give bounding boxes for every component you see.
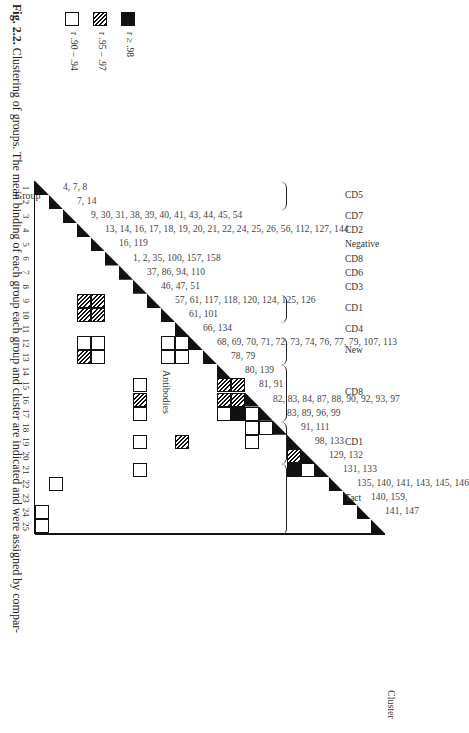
cluster-brace: [276, 365, 287, 421]
matrix-cell-open: [49, 477, 63, 491]
diagonal-step: [301, 449, 315, 463]
antibody-group-2: 7, 14: [77, 196, 97, 206]
antibody-group-20: 129, 132: [329, 450, 363, 460]
antibody-group-1: 4, 7, 8: [63, 182, 87, 192]
cluster-label: CD3: [345, 282, 363, 292]
diagonal-step: [35, 181, 49, 195]
diagonal-step: [49, 195, 63, 209]
matrix-cell-open: [77, 336, 91, 350]
matrix-cell-hatched: [217, 393, 231, 407]
antibody-group-4: 13, 14, 16, 17, 18, 19, 20, 21, 22, 24, …: [105, 224, 349, 234]
cluster-label: Negative: [345, 239, 379, 249]
antibody-group-7: 37, 86, 94, 110: [147, 267, 205, 277]
matrix-cell-black: [287, 463, 301, 477]
antibody-group-10: 61, 101: [189, 309, 218, 319]
antibody-group-21: 131, 133: [343, 464, 377, 474]
matrix-cell-hatched: [231, 393, 245, 407]
diagonal-step: [161, 308, 175, 322]
diagonal-step: [91, 237, 105, 251]
antibody-group-13: 78, 79: [231, 351, 255, 361]
cluster-label: CD5: [345, 190, 363, 200]
matrix-cell-hatched: [91, 308, 105, 322]
antibody-group-24: 141, 147: [385, 506, 419, 516]
cluster-label: CD1: [345, 303, 363, 313]
antibody-group-5: 16, 119: [119, 238, 148, 248]
diagonal-step: [245, 393, 259, 407]
matrix-cell-hatched: [231, 378, 245, 392]
cluster-brace: [276, 337, 287, 365]
matrix-cell-hatched: [77, 308, 91, 322]
diagonal-step: [217, 364, 231, 378]
diagonal-step: [329, 477, 343, 491]
matrix-cell-open: [245, 407, 259, 421]
diagonal-step: [287, 435, 301, 449]
cluster-header: Cluster: [386, 690, 397, 719]
cluster-brace: [276, 182, 287, 210]
antibody-group-12: 68, 69, 70, 71, 72, 73, 74, 76, 77, 79, …: [217, 337, 397, 347]
cluster-label: New: [345, 345, 363, 355]
matrix-cell-open: [133, 407, 147, 421]
matrix-cell-hatched: [217, 378, 231, 392]
diagonal-step: [147, 294, 161, 308]
matrix-right-edge: [35, 533, 385, 534]
antibody-group-11: 66, 134: [203, 323, 232, 333]
antibodies-header: Antibodies: [161, 370, 172, 414]
antibody-group-9: 57, 61, 117, 118, 120, 124, 125, 126: [175, 295, 316, 305]
matrix-cell-open: [91, 350, 105, 364]
diagonal-step: [357, 505, 371, 519]
legend-swatch-black: [121, 12, 135, 26]
matrix-cell-hatched: [77, 294, 91, 308]
legend-label: r ≥ .98: [125, 32, 135, 57]
antibody-group-6: 1, 2, 35, 100, 157, 158: [133, 253, 221, 263]
matrix-cell-hatched: [287, 449, 301, 463]
matrix-baseline: [34, 181, 35, 534]
diagonal-step: [189, 336, 203, 350]
cluster-label: CD6: [345, 268, 363, 278]
cluster-label: CD4: [345, 324, 363, 334]
antibody-group-8: 46, 47, 51: [161, 281, 200, 291]
cluster-brace: [276, 422, 287, 464]
diagonal-step: [119, 266, 133, 280]
diagonal-step: [371, 519, 385, 533]
cluster-label: CD1: [345, 437, 363, 447]
antibody-group-3: 9, 30, 31, 38, 39, 40, 41, 43, 44, 45, 5…: [91, 210, 242, 220]
diagonal-step: [315, 463, 329, 477]
diagonal-step: [259, 407, 273, 421]
figure-caption: Fig. 2.2. Clustering of groups. The mean…: [9, 4, 24, 633]
diagonal-step: [63, 209, 77, 223]
matrix-cell-open: [91, 336, 105, 350]
matrix-cell-open: [161, 336, 175, 350]
matrix-cell-black: [231, 407, 245, 421]
cluster-brace: [276, 295, 287, 323]
matrix-cell-open: [245, 421, 259, 435]
legend-label: r .95 – .97: [97, 32, 107, 71]
matrix-cell-open: [301, 463, 315, 477]
matrix-cell-open: [35, 505, 49, 519]
matrix-cell-open: [133, 463, 147, 477]
matrix-cell-open: [175, 336, 189, 350]
caption-label: Fig. 2.2.: [10, 4, 24, 45]
matrix-cell-open: [175, 350, 189, 364]
antibody-group-22: 135, 140, 141, 143, 145, 146: [357, 478, 469, 488]
antibody-group-16: 82, 83, 84, 87, 88, 90, 92, 93, 97: [273, 394, 400, 404]
matrix-cell-hatched: [77, 350, 91, 364]
antibody-group-14: 80, 139: [245, 365, 274, 375]
matrix-cell-open: [245, 435, 259, 449]
cluster-label: CD8: [345, 254, 363, 264]
cluster-brace: [276, 464, 287, 535]
antibody-group-17: 83, 89, 96, 99: [287, 408, 341, 418]
matrix-cell-hatched: [175, 435, 189, 449]
antibody-group-19: 98, 133: [315, 436, 344, 446]
legend-swatch-open: [65, 12, 79, 26]
matrix-cell-open: [133, 435, 147, 449]
cluster-label: CD7: [345, 211, 363, 221]
cluster-label: CD2: [345, 225, 363, 235]
diagonal-step: [175, 322, 189, 336]
antibody-group-18: 91, 111: [301, 422, 330, 432]
matrix-cell-open: [259, 421, 273, 435]
matrix-cell-open: [35, 519, 49, 533]
matrix-cell-hatched: [133, 393, 147, 407]
legend-label: r .90 – .94: [69, 32, 79, 71]
cluster-label: CD8: [345, 387, 363, 397]
